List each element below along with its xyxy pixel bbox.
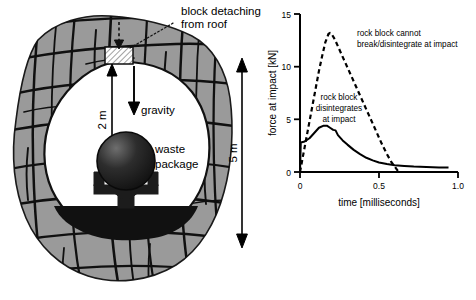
impact-force-chart-panel: 15 10 5 0 0 0.5 1.0 time [milliseconds] …	[262, 0, 476, 300]
annotation-cannot-break-line1: rock block cannot	[357, 29, 421, 38]
x-tick-label-1-0: 1.0	[452, 181, 464, 191]
annotation-cannot-break-line2: break/disintegrate at impact	[357, 40, 458, 49]
waste-package	[97, 132, 155, 190]
x-tick-label-0: 0	[298, 181, 303, 191]
annotation-disintegrates-line2: disintegrates	[316, 104, 362, 113]
drop-height-label: 2 m	[96, 110, 108, 129]
figure-container: block detaching from roof gravity 2 m 5 …	[0, 0, 476, 300]
annotation-disintegrates-line3: at impact	[322, 115, 356, 124]
tunnel-span-label: 5 m	[227, 143, 239, 162]
waste-package-label-line1: waste	[154, 143, 185, 155]
x-tick-label-0-5: 0.5	[373, 181, 385, 191]
waste-package-label-line2: package	[155, 158, 198, 170]
series-disintegrates-curve	[300, 126, 449, 172]
callout-line1: block detaching	[181, 5, 261, 17]
impact-force-chart-svg: 15 10 5 0 0 0.5 1.0 time [milliseconds] …	[262, 0, 476, 300]
x-axis-title: time [milliseconds]	[338, 197, 420, 208]
y-tick-label-15: 15	[282, 10, 292, 20]
y-tick-label-5: 5	[286, 115, 291, 125]
y-tick-label-0: 0	[286, 168, 291, 178]
y-tick-label-10: 10	[282, 62, 292, 72]
y-axis-title: force at impact [kN]	[267, 50, 278, 136]
callout-line2: from roof	[181, 18, 228, 30]
series-cannot-break-curve	[300, 33, 399, 172]
gravity-label: gravity	[141, 104, 175, 116]
tunnel-cross-section-svg: block detaching from roof gravity 2 m 5 …	[0, 0, 268, 300]
tunnel-cross-section-panel: block detaching from roof gravity 2 m 5 …	[0, 0, 268, 300]
annotation-disintegrates-line1: rock block	[321, 93, 359, 102]
